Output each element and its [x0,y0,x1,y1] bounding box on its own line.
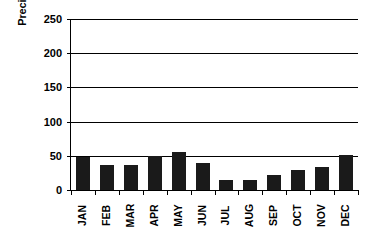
y-tick-label: 250 [32,14,62,24]
bar [291,170,305,190]
bar-slot [191,19,215,190]
y-axis-title: Precipitation mm [14,0,30,52]
bar-slot [310,19,334,190]
x-label-slot: MAR [118,194,142,234]
bar [315,167,329,190]
bar [76,157,90,190]
x-axis-label-sep: SEP [268,196,279,235]
precipitation-bar-chart: Precipitation mm 050100150200250 JANFEBM… [0,0,375,234]
x-axis-label-apr: APR [148,196,159,235]
x-axis-label-may: MAY [172,196,183,235]
y-tick-label: 200 [32,48,62,58]
bar [148,156,162,190]
bar-slot [71,19,95,190]
x-axis-label-nov: NOV [316,196,327,235]
x-axis-label-oct: OCT [292,196,303,235]
x-axis-label-dec: DEC [340,196,351,235]
bar [219,180,233,190]
bar [267,175,281,190]
bar-slot [119,19,143,190]
x-axis-label-jan: JAN [76,196,87,235]
bars-layer [71,19,358,190]
bar [124,165,138,190]
x-axis-label-feb: FEB [100,196,111,235]
x-axis-label-jun: JUN [196,196,207,235]
x-label-slot: OCT [285,194,309,234]
bar [172,152,186,190]
plot-area [70,19,358,191]
x-axis-label-mar: MAR [124,196,135,235]
bar-slot [95,19,119,190]
x-label-slot: APR [142,194,166,234]
y-tick-label: 100 [32,117,62,127]
bar-slot [143,19,167,190]
bar [243,180,257,190]
bar-slot [215,19,239,190]
bar-slot [167,19,191,190]
x-label-slot: JAN [70,194,94,234]
x-label-slot: JUL [214,194,238,234]
x-label-slot: JUN [190,194,214,234]
x-label-slot: DEC [333,194,357,234]
y-tick-label: 0 [32,185,62,195]
x-tick-mark [358,190,359,195]
y-tick-label: 50 [32,151,62,161]
x-axis-category-labels: JANFEBMARAPRMAYJUNJULAUGSEPOCTNOVDEC [70,194,357,234]
x-label-slot: MAY [166,194,190,234]
y-tick-label: 150 [32,82,62,92]
bar [196,163,210,190]
x-axis-label-aug: AUG [244,196,255,235]
bar [100,165,114,190]
x-label-slot: NOV [309,194,333,234]
x-label-slot: FEB [94,194,118,234]
x-label-slot: AUG [237,194,261,234]
bar [339,155,353,190]
y-axis-tick-labels: 050100150200250 [32,0,62,234]
x-label-slot: SEP [261,194,285,234]
bar-slot [262,19,286,190]
bar-slot [286,19,310,190]
x-axis-label-jul: JUL [220,196,231,235]
bar-slot [238,19,262,190]
bar-slot [334,19,358,190]
